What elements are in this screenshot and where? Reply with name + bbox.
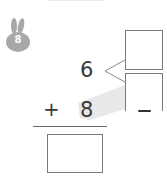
sum-line (33, 126, 107, 127)
plus-sign: + (43, 98, 60, 120)
addend-bottom: 8 (80, 99, 93, 121)
box-dash-mark (138, 110, 151, 112)
decompose-box-upper[interactable] (125, 30, 163, 70)
decompose-box-lower[interactable] (125, 73, 163, 111)
problem-badge: 8 (4, 17, 32, 53)
problem-number: 8 (4, 34, 32, 46)
answer-box[interactable] (47, 134, 103, 173)
addend-top: 6 (80, 59, 93, 81)
math-worksheet: 8 6 + 8 (0, 0, 167, 178)
top-divider (48, 0, 104, 1)
